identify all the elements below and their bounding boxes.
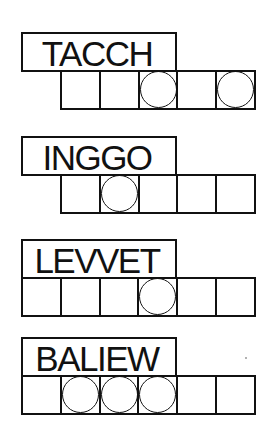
answer-cell[interactable] [101, 279, 140, 315]
scrambled-word: INGGO [42, 137, 155, 175]
scrambled-word-box: LEVVET [21, 239, 177, 279]
scrambled-word: TACCH [42, 33, 156, 71]
jumble-word-3: LEVVET [0, 239, 268, 329]
answer-cell[interactable] [23, 279, 62, 315]
answer-cell[interactable] [217, 279, 256, 315]
scrambled-word-box: TACCH [21, 32, 177, 72]
scrambled-word-box: BALIEW [21, 337, 177, 377]
answer-cell[interactable] [178, 72, 217, 108]
scrambled-word-box: INGGO [21, 136, 177, 176]
answer-cell-circled[interactable] [101, 377, 140, 413]
answer-cell[interactable] [178, 176, 217, 212]
scrambled-word: BALIEW [35, 338, 162, 376]
answer-cells [21, 277, 256, 317]
answer-cell-circled[interactable] [140, 72, 179, 108]
answer-cell-circled[interactable] [217, 72, 256, 108]
answer-cell[interactable] [62, 176, 101, 212]
answer-cell[interactable] [101, 72, 140, 108]
answer-cells [60, 174, 256, 214]
answer-cell-circled[interactable] [139, 279, 178, 315]
answer-cell[interactable] [178, 377, 217, 413]
jumble-word-1: TACCH [0, 32, 268, 122]
print-speck [245, 357, 247, 359]
answer-cell[interactable] [217, 176, 256, 212]
scrambled-word: LEVVET [34, 240, 163, 278]
answer-cell[interactable] [62, 72, 101, 108]
answer-cell[interactable] [140, 176, 179, 212]
answer-cell[interactable] [62, 279, 101, 315]
answer-cell[interactable] [178, 279, 217, 315]
answer-cells [21, 375, 256, 415]
answer-cell[interactable] [23, 377, 62, 413]
jumble-puzzle: TACCH INGGO LEVVET [0, 0, 268, 435]
answer-cell-circled[interactable] [62, 377, 101, 413]
answer-cells [60, 70, 256, 110]
jumble-word-4: BALIEW [0, 337, 268, 427]
jumble-word-2: INGGO [0, 136, 268, 226]
answer-cell-circled[interactable] [139, 377, 178, 413]
answer-cell[interactable] [217, 377, 256, 413]
answer-cell-circled[interactable] [101, 176, 140, 212]
